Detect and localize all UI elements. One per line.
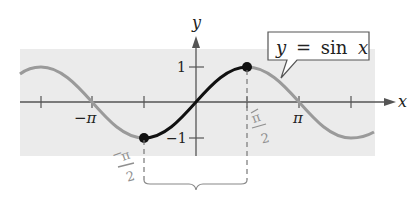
- interval-brace: [144, 180, 247, 190]
- y-tick-label-neg-1: −1: [166, 130, 187, 146]
- y-tick-label-1: 1: [177, 59, 186, 75]
- x-axis-label: x: [398, 92, 407, 111]
- callout-x: x: [358, 37, 368, 58]
- svg-text:2: 2: [124, 168, 136, 185]
- callout-fn: sin: [321, 37, 348, 58]
- callout-eq: =: [296, 37, 311, 58]
- x-tick-label-pi: π: [292, 109, 304, 127]
- x-axis-arrow-icon: [384, 98, 396, 106]
- callout-y: y: [275, 37, 287, 58]
- x-tick-label-neg-pi: −π: [74, 109, 98, 127]
- y-axis-label: y: [191, 13, 202, 32]
- y-axis-arrow-icon: [192, 36, 200, 48]
- sine-graph-figure: x y −π π 1 −1 − π 2 π 2: [0, 0, 410, 200]
